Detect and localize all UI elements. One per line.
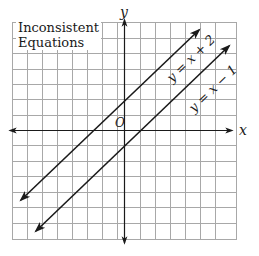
line-label-x-plus-2: y = x + 2 [163,32,218,86]
graph-title: Inconsistent Equations [16,20,101,50]
y-axis-label: y [119,4,129,20]
x-axis-label: x [239,122,247,138]
origin-label: O [115,116,125,130]
title-line-1: Inconsistent [18,20,99,35]
title-line-2: Equations [18,35,99,50]
